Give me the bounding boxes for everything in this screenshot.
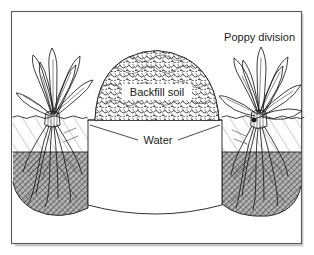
water-label: Water [139,132,177,147]
diagram-canvas: Water Backfill soil Poppy division [0,0,314,255]
water-label-text: Water [144,134,173,146]
poppy-division-figure: Water Backfill soil Poppy division [0,0,314,255]
backfill-soil-label: Backfill soil [122,84,192,100]
right-plant-crown-bud [251,118,256,122]
frame-drop-shadow [15,244,303,246]
backfill-soil-label-text: Backfill soil [130,86,184,98]
poppy-division-label-text: Poppy division [224,31,295,43]
